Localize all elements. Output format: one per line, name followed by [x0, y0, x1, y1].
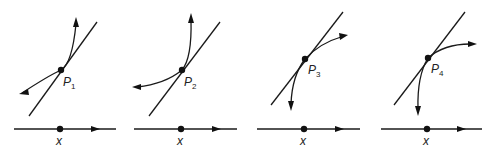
arrow-down-icon: [415, 106, 421, 116]
point-subscript: 4: [439, 69, 444, 78]
point-p2: [179, 67, 185, 73]
point-p4: [425, 55, 431, 61]
point-subscript: 3: [316, 70, 321, 79]
axis-point: [178, 126, 184, 132]
arrow-up-icon: [73, 17, 79, 27]
axis-point: [57, 126, 63, 132]
axis-arrow-icon: [212, 126, 221, 132]
point-label: P: [184, 75, 192, 89]
curve: [137, 20, 191, 87]
panel-2: P 2 x: [132, 13, 237, 148]
panel-1: P 1 x: [14, 17, 116, 148]
axis-arrow-icon: [457, 126, 466, 132]
point-subscript: 1: [71, 82, 76, 91]
arrow-down-icon: [288, 101, 294, 111]
curve: [418, 44, 470, 109]
axis-point: [301, 126, 307, 132]
arrow-left-icon: [132, 84, 141, 90]
point-label: P: [308, 63, 316, 77]
axis-arrow-icon: [335, 126, 344, 132]
point-label: P: [431, 62, 439, 76]
arrow-right-icon: [468, 41, 477, 47]
axis-label: x: [299, 134, 307, 148]
panel-3: P 3 x: [257, 12, 360, 148]
point-p3: [302, 56, 308, 62]
arrow-up-icon: [188, 13, 194, 23]
axis-arrow-icon: [91, 126, 100, 132]
point-label: P: [63, 75, 71, 89]
panel-4: P 4 x: [381, 12, 482, 148]
arrow-right-icon: [339, 33, 348, 40]
figure-canvas: P 1 x P 2 x P: [0, 0, 494, 151]
point-subscript: 2: [192, 82, 197, 91]
point-p1: [58, 67, 64, 73]
axis-label: x: [55, 134, 63, 148]
axis-label: x: [422, 134, 430, 148]
arrow-left-icon: [19, 89, 29, 95]
axis-point: [424, 126, 430, 132]
axis-label: x: [176, 134, 184, 148]
tangent-curves-figure: P 1 x P 2 x P: [0, 0, 494, 151]
